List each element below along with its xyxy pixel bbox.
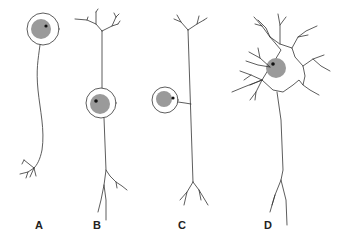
label-c: C — [178, 219, 186, 231]
neuron-c-pseudounipolar — [152, 15, 208, 205]
neuron-a-unipolar — [20, 13, 59, 178]
label-a: A — [35, 219, 43, 231]
neuron-d-multipolar — [232, 14, 330, 225]
label-b: B — [93, 219, 101, 231]
neuron-types-diagram — [0, 0, 340, 237]
neuron-b-bipolar — [75, 9, 127, 220]
label-d: D — [264, 219, 272, 231]
